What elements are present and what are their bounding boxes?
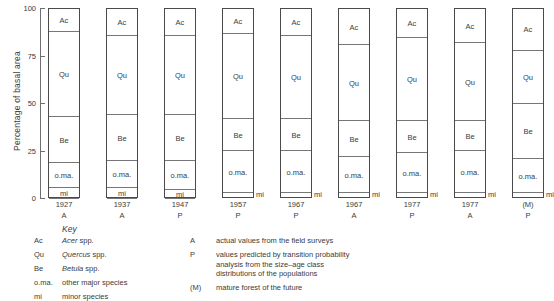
y-axis-tick-label: 100 [10,4,36,13]
stacked-bar[interactable]: AcQuBeo.ma. [222,8,254,198]
bar-segment-label: Qu [281,73,311,82]
chart-key: Key AcAcer spp.QuQuercus spp.BeBetula sp… [0,222,548,301]
bar-segment [397,193,427,199]
bar-column: miAcQuBeo.ma.1967P [280,8,312,198]
bar-column: miAcQuBeo.ma.1977A [454,8,486,198]
bar-segment-label: Be [397,133,427,142]
bar-segment-label: Ac [49,16,79,25]
x-axis-year-label: 1967 [270,200,322,209]
bar-segment-label: Be [455,132,485,141]
key-code-row: Aactual values from the field surveys [190,236,520,246]
bar-segment-label-outside: mi [430,190,438,199]
bar-column: miAcQuBeo.ma.1967A [338,8,370,198]
bar-segment-label: Be [339,135,369,144]
bar-segment-label: Be [281,131,311,140]
key-description: Quercus spp. [62,250,107,260]
bar-segment-label: o.ma. [513,172,543,181]
bar-segment [455,193,485,199]
x-axis-year-label: 1927 [38,200,90,209]
x-axis-year-label: 1957 [212,200,264,209]
bar-segment-label: Qu [455,78,485,87]
x-axis-code-label: P [212,211,264,220]
bar-segment-label: Be [513,127,543,136]
bar-segment-label: Qu [513,73,543,82]
bar-segment-label-outside: mi [546,190,554,199]
bar-segment-label: Ac [281,18,311,27]
key-species-list: AcAcer spp.QuQuercus spp.BeBetula spp.o.… [34,236,194,301]
key-symbol: Be [34,264,62,274]
y-axis-tick-label: 75 [10,52,36,61]
key-description: actual values from the field surveys [216,236,333,246]
key-symbol: Qu [34,250,62,260]
y-axis-tick [40,56,45,57]
y-axis-tick [40,8,45,9]
x-axis-code-label: P [502,211,554,220]
bar-segment-label: Be [223,131,253,140]
bar-segment [339,193,369,199]
x-axis-code-label: A [96,211,148,220]
bar-segment-label: o.ma. [223,168,253,177]
bar-segment-label: Qu [49,70,79,79]
bar-segment-label: Ac [513,25,543,34]
bar-column: AcQuBeo.ma.mi1927A [48,8,80,198]
bar-segment-label: Qu [397,75,427,84]
x-axis-code-label: A [38,211,90,220]
bar-segment-label: o.ma. [281,168,311,177]
y-axis-tick-label: 25 [10,147,36,156]
y-axis-tick-label: 50 [10,99,36,108]
key-symbol: o.ma. [34,278,62,288]
key-symbol: mi [34,292,62,301]
bar-segment-label: Ac [107,18,137,27]
key-species-row: BeBetula spp. [34,264,194,274]
bar-segment-label: Ac [223,17,253,26]
bar-column: miAcQuBeo.ma.1977P [396,8,428,198]
bar-segment-label: Qu [223,72,253,81]
bar-segment-label: Ac [165,18,195,27]
bar-segment [223,193,253,199]
bar-segment-label: o.ma. [397,169,427,178]
bar-columns: AcQuBeo.ma.mi1927AAcQuBeo.ma.mi1937AAcQu… [48,8,546,198]
bar-segment-label: Ac [397,19,427,28]
stacked-bar[interactable]: AcQuBeo.ma. [396,8,428,198]
bar-segment-label: mi [49,189,79,198]
bar-segment-label: mi [107,189,137,198]
x-axis-code-label: P [270,211,322,220]
bar-column: AcQuBeo.ma.mi1947P [164,8,196,198]
y-axis-tick-label: 0 [10,194,36,203]
bar-segment-label: o.ma. [339,171,369,180]
x-axis-year-label: 1947 [154,200,206,209]
stacked-bar[interactable]: AcQuBeo.ma.mi [48,8,80,198]
y-axis-tick [40,151,45,152]
key-species-row: QuQuercus spp. [34,250,194,260]
key-code-row: (M)mature forest of the future [190,283,520,293]
key-title: Key [62,224,77,234]
x-axis-code-label: P [386,211,438,220]
x-axis-code-label: P [154,211,206,220]
bar-segment-label-outside: mi [314,190,322,199]
x-axis-code-label: A [444,211,496,220]
x-axis-year-label: (M) [502,200,554,209]
bar-segment-label: Qu [107,71,137,80]
bar-segment-label: o.ma. [49,171,79,180]
x-axis-year-label: 1967 [328,200,380,209]
bar-segment-label-outside: mi [256,190,264,199]
stacked-bar[interactable]: AcQuBeo.ma. [338,8,370,198]
key-symbol: A [190,236,216,246]
stacked-bar[interactable]: AcQuBeo.ma.mi [164,8,196,198]
key-codes-list: Aactual values from the field surveysPva… [190,236,520,297]
bar-segment [281,193,311,199]
x-axis-year-label: 1977 [386,200,438,209]
stacked-bar[interactable]: AcQuBeo.ma. [512,8,544,198]
stacked-bar[interactable]: AcQuBeo.ma.mi [106,8,138,198]
stacked-bar[interactable]: AcQuBeo.ma. [454,8,486,198]
bar-column: AcQuBeo.ma.mi1937A [106,8,138,198]
bar-segment-label-outside: mi [372,190,380,199]
bar-column: miAcQuBeo.ma.1957P [222,8,254,198]
bar-segment-label: o.ma. [107,170,137,179]
key-code-row: Pvalues predicted by transition probabil… [190,250,520,279]
bar-segment-label: o.ma. [455,168,485,177]
bar-segment-label: Be [49,136,79,145]
bar-segment-label-outside: mi [488,190,496,199]
stacked-bar[interactable]: AcQuBeo.ma. [280,8,312,198]
key-symbol: (M) [190,283,216,293]
